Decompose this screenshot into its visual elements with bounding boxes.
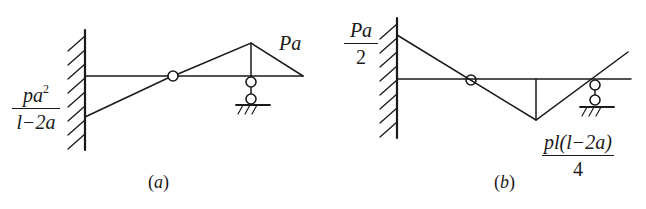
fraction-bar	[12, 108, 60, 109]
caption-a: (a)	[148, 172, 169, 193]
fraction-numerator: pa2	[12, 78, 60, 106]
bending-moment-diagrams: Pa pa2 l−2a (a) Pa 2 pl(l−2a) 4 (b)	[0, 0, 646, 209]
wall-hatch-a	[68, 36, 85, 149]
panel-a-structure	[68, 30, 303, 150]
roller-support-b	[580, 80, 614, 116]
fraction-pl-l-2a-over-4: pl(l−2a) 4	[542, 131, 614, 180]
fraction-pa-over-2: Pa 2	[344, 19, 378, 68]
fraction-denominator: 4	[542, 158, 614, 180]
wall-hatch-b	[380, 24, 397, 137]
fraction-numerator: pl(l−2a)	[542, 131, 614, 153]
label-pa-peak: Pa	[279, 32, 301, 55]
fraction-denominator: 2	[344, 46, 378, 68]
hinge-a	[168, 71, 178, 81]
caption-b: (b)	[494, 172, 515, 193]
fraction-bar	[542, 155, 614, 156]
panel-b-structure	[380, 18, 631, 138]
moment-line-left-a	[85, 78, 168, 117]
fraction-pa2-over-l-2a: pa2 l−2a	[12, 78, 60, 133]
fraction-denominator: l−2a	[12, 111, 60, 133]
fraction-bar	[344, 43, 378, 44]
fraction-numerator: Pa	[344, 19, 378, 41]
roller-support-a	[236, 77, 270, 114]
